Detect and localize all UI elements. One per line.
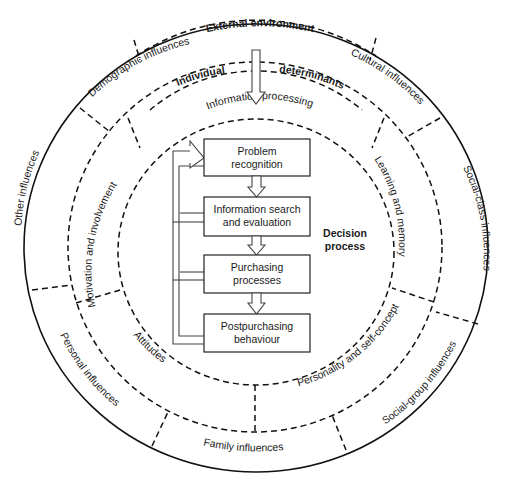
label-social-group-influences: Social-group influences: [379, 339, 458, 426]
determinants-label: determinants: [279, 62, 347, 91]
decision-step-2: Information search and evaluation: [204, 197, 310, 236]
consumer-behaviour-diagram: External environment Demographic influen…: [0, 0, 513, 495]
decision-process-subtitle: process: [325, 240, 365, 252]
decision-step-4: Postpurchasing behaviour: [204, 314, 310, 352]
decision-process-title: Decision: [323, 227, 367, 239]
label-family-influences: Family influences: [202, 435, 283, 453]
svg-text:and evaluation: and evaluation: [223, 216, 291, 228]
step-arrow-3: [248, 293, 265, 314]
external-to-individual-arrow: [247, 50, 265, 104]
label-motivation-and-involvement: Motivation and involvement: [81, 179, 118, 309]
label-personal-influences: Personal influences: [58, 330, 122, 408]
step-arrow-2: [248, 236, 265, 255]
label-social-class-influences: Social-class influences: [461, 163, 494, 271]
label-cultural-influences: Cultural influences: [349, 46, 427, 106]
svg-text:Information search: Information search: [214, 203, 301, 215]
individual-label: Individual: [174, 63, 225, 88]
feedback-loops: [173, 141, 204, 344]
label-demographic-influences: Demographic influences: [85, 34, 190, 98]
label-learning-and-memory: Learning and memory: [373, 154, 410, 258]
svg-text:recognition: recognition: [231, 158, 283, 170]
svg-text:processes: processes: [233, 274, 281, 286]
svg-text:Purchasing: Purchasing: [231, 261, 284, 273]
decision-step-3: Purchasing processes: [204, 255, 310, 293]
svg-text:Postpurchasing: Postpurchasing: [221, 320, 294, 332]
decision-step-1: Problem recognition: [204, 139, 310, 176]
label-attitudes: Attitudes: [132, 328, 169, 364]
feedback-arrowhead: [190, 141, 204, 168]
svg-text:behaviour: behaviour: [234, 333, 281, 345]
external-environment-label: External environment: [205, 16, 316, 34]
svg-text:Problem: Problem: [237, 145, 276, 157]
step-arrow-1: [248, 176, 265, 197]
label-personality-and-self-concept: Personality and self-concept: [296, 301, 401, 388]
